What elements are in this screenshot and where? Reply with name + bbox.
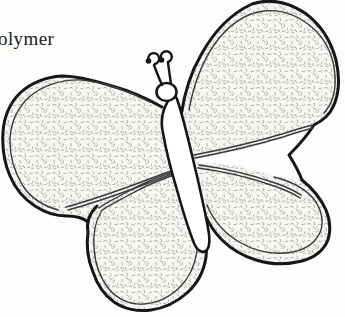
- upper-right-wing: [180, 1, 339, 159]
- antenna-club-left: [146, 58, 152, 64]
- scanned-page: olymer: [0, 0, 345, 317]
- head: [157, 83, 177, 101]
- lower-right-wing: [196, 163, 330, 264]
- antenna-club-right: [159, 57, 165, 63]
- left-antenna: [146, 53, 162, 85]
- butterfly-illustration: [0, 0, 345, 317]
